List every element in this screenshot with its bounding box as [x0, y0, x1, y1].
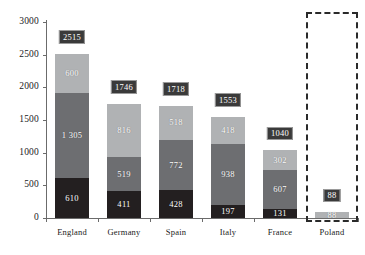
bar-segment[interactable]: 418: [211, 117, 245, 144]
bar-segment[interactable]: 600: [55, 54, 89, 93]
x-axis-tick: [98, 218, 99, 222]
bar-group[interactable]: 8888: [315, 0, 349, 218]
bar-segment-value-label: 772: [169, 161, 183, 170]
bar-segment[interactable]: 607: [263, 170, 297, 210]
x-axis-tick: [150, 218, 151, 222]
bar-segment-value-label: 518: [169, 118, 183, 127]
bar-segment-value-label: 610: [65, 194, 79, 203]
x-axis-category-label: England: [46, 228, 98, 237]
bar-total-label: 88: [323, 189, 340, 203]
y-axis-tick-label: 1500: [19, 115, 39, 125]
stacked-bar[interactable]: 6101 305600: [55, 54, 89, 218]
y-axis-tick-label: 0: [34, 213, 39, 223]
bar-segment[interactable]: 428: [159, 190, 193, 218]
bar-total-label: 2515: [59, 30, 85, 44]
bar-group[interactable]: 4287725181718: [159, 0, 193, 218]
bar-segment-value-label: 418: [221, 126, 235, 135]
y-axis-tick-label: 500: [24, 180, 39, 190]
bar-segment-value-label: 88: [327, 211, 336, 220]
bar-segment[interactable]: 518: [159, 106, 193, 140]
bar-segment[interactable]: 772: [159, 140, 193, 190]
bar-segment[interactable]: 1 305: [55, 93, 89, 178]
bar-segment[interactable]: 519: [107, 157, 141, 191]
stacked-bar-chart: 050010001500200025003000 EnglandGermanyS…: [0, 0, 365, 255]
bar-segment[interactable]: 131: [263, 209, 297, 218]
bar-total-label: 1746: [111, 80, 137, 94]
y-axis-tick-label: 3000: [19, 17, 39, 27]
bar-group[interactable]: 1316073021040: [263, 0, 297, 218]
bar-segment[interactable]: 197: [211, 205, 245, 218]
bar-segment[interactable]: 411: [107, 191, 141, 218]
bar-segment-value-label: 600: [65, 69, 79, 78]
x-axis-tick: [46, 218, 47, 222]
bar-segment-value-label: 197: [221, 207, 235, 216]
stacked-bar[interactable]: 197938418: [211, 117, 245, 218]
x-axis-category-label: Germany: [98, 228, 150, 237]
bar-segment[interactable]: 938: [211, 144, 245, 205]
y-axis-tick-label: 2500: [19, 50, 39, 60]
bar-segment-value-label: 519: [117, 170, 131, 179]
x-axis-category-label: Italy: [202, 228, 254, 237]
y-axis-tick-label: 1000: [19, 148, 39, 158]
x-axis-category-label: Poland: [306, 228, 358, 237]
bar-group[interactable]: 6101 3056002515: [55, 0, 89, 218]
bar-segment-value-label: 607: [273, 185, 287, 194]
bar-total-label: 1040: [267, 127, 293, 141]
bar-segment-value-label: 411: [117, 200, 130, 209]
stacked-bar[interactable]: 428772518: [159, 106, 193, 218]
bar-segment-value-label: 131: [273, 209, 287, 218]
bar-group[interactable]: 4115198161746: [107, 0, 141, 218]
stacked-bar[interactable]: 411519816: [107, 104, 141, 218]
bar-total-label: 1718: [163, 82, 189, 96]
plot-area: [46, 14, 358, 218]
bar-segment-value-label: 938: [221, 170, 235, 179]
bar-segment-value-label: 428: [169, 200, 183, 209]
x-axis-tick: [306, 218, 307, 222]
y-axis-tick-label: 2000: [19, 82, 39, 92]
bar-segment-value-label: 302: [273, 156, 287, 165]
bar-segment-value-label: 816: [117, 126, 131, 135]
x-axis-category-label: Spain: [150, 228, 202, 237]
bar-segment-value-label: 1 305: [62, 131, 83, 140]
bar-group[interactable]: 1979384181553: [211, 0, 245, 218]
bar-segment[interactable]: 610: [55, 178, 89, 218]
x-axis-tick: [202, 218, 203, 222]
stacked-bar[interactable]: 88: [315, 212, 349, 218]
bar-segment[interactable]: 816: [107, 104, 141, 157]
bar-total-label: 1553: [215, 93, 241, 107]
stacked-bar[interactable]: 131607302: [263, 150, 297, 218]
x-axis-category-label: France: [254, 228, 306, 237]
bar-segment[interactable]: 88: [315, 212, 349, 218]
x-axis-tick: [358, 218, 359, 222]
bar-segment[interactable]: 302: [263, 150, 297, 170]
x-axis-tick: [254, 218, 255, 222]
